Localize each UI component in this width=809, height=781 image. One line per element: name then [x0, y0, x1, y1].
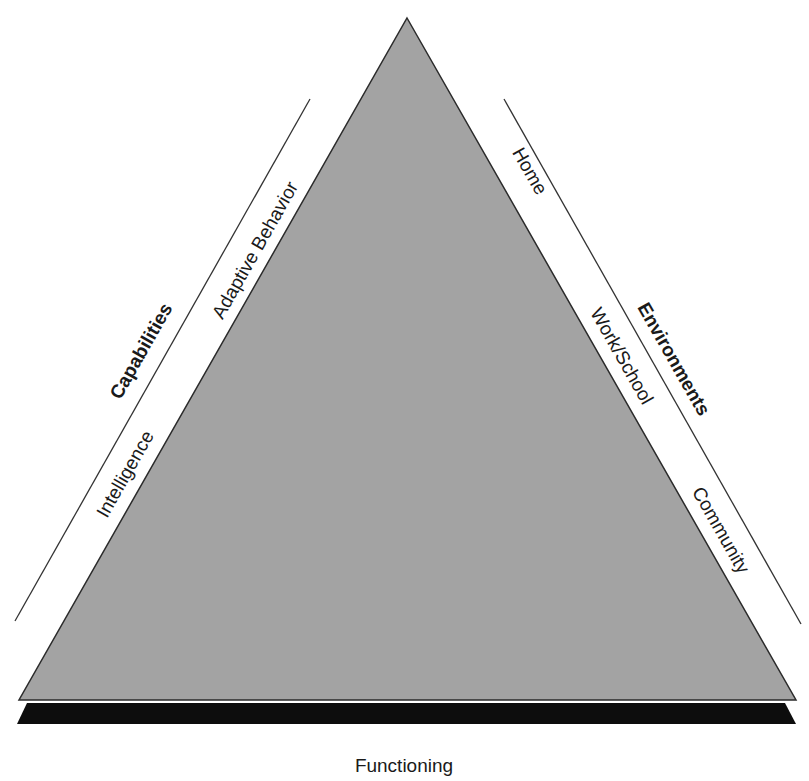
functioning-base-label: Functioning: [355, 755, 453, 777]
base-slab: [17, 703, 796, 724]
functioning-triangle-diagram: Adaptive Behavior Intelligence Capabilit…: [0, 0, 809, 781]
